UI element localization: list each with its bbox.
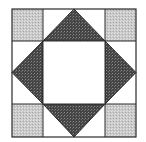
center-square [43, 41, 105, 104]
corner-square-bottom-left [12, 104, 43, 137]
corner-square-bottom-right [105, 104, 136, 137]
quilt-block-diagram [0, 0, 146, 142]
corner-square-top-right [105, 9, 136, 41]
corner-square-top-left [12, 9, 43, 41]
